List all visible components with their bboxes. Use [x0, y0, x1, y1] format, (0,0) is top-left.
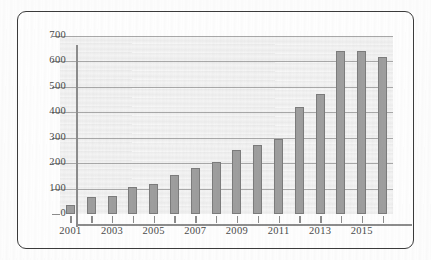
- x-tick: [383, 216, 384, 223]
- plot-background: [60, 36, 393, 214]
- x-tick-label: 2003: [92, 225, 132, 236]
- x-tick: [91, 216, 92, 223]
- x-tick-label: 2007: [175, 225, 215, 236]
- y-tick-label: 600: [32, 54, 66, 65]
- x-tick-label: 2015: [342, 225, 382, 236]
- gridline: [60, 36, 393, 37]
- bar-2013: [316, 94, 325, 214]
- x-tick-label: 2011: [259, 225, 299, 236]
- x-tick-label: 2009: [217, 225, 257, 236]
- y-tick-label: 500: [32, 80, 66, 91]
- bar-2003: [108, 196, 117, 214]
- bar-2011: [274, 139, 283, 214]
- y-tick-label: 200: [32, 156, 66, 167]
- x-tick: [195, 216, 196, 223]
- bar-2015: [357, 51, 366, 214]
- bar-2006: [170, 175, 179, 214]
- x-tick: [341, 216, 342, 223]
- x-tick: [279, 216, 280, 223]
- x-tick: [174, 216, 175, 223]
- x-tick: [112, 216, 113, 223]
- y-axis-labels: 0100200300400500600700: [26, 12, 66, 260]
- x-tick: [362, 216, 363, 223]
- bar-2004: [128, 187, 137, 214]
- bar-2008: [212, 162, 221, 214]
- scanned-page: 0100200300400500600700 20012003200520072…: [0, 0, 431, 260]
- x-tick: [258, 216, 259, 223]
- x-tick: [237, 216, 238, 223]
- bar-2002: [87, 197, 96, 214]
- y-tick-label: 100: [32, 182, 66, 193]
- bar-2007: [191, 168, 200, 214]
- y-axis-line: [76, 45, 78, 227]
- x-tick: [320, 216, 321, 223]
- y-tick-label: 700: [32, 29, 66, 40]
- x-tick: [133, 216, 134, 223]
- y-tick-label: 300: [32, 131, 66, 142]
- x-tick-label: 2001: [50, 225, 90, 236]
- bar-2010: [253, 145, 262, 214]
- x-tick: [216, 216, 217, 223]
- x-tick-label: 2013: [300, 225, 340, 236]
- x-tick: [70, 216, 71, 223]
- bar-2005: [149, 184, 158, 214]
- bar-2001: [66, 205, 75, 214]
- y-tick-label: 0: [32, 207, 66, 218]
- bar-2009: [232, 150, 241, 214]
- x-tick-label: 2005: [134, 225, 174, 236]
- bar-2014: [336, 51, 345, 214]
- bar-2016: [378, 57, 387, 214]
- y-tick-label: 400: [32, 105, 66, 116]
- figure-frame: 0100200300400500600700 20012003200520072…: [17, 11, 414, 249]
- x-tick: [154, 216, 155, 223]
- x-tick: [299, 216, 300, 223]
- bar-2012: [295, 107, 304, 214]
